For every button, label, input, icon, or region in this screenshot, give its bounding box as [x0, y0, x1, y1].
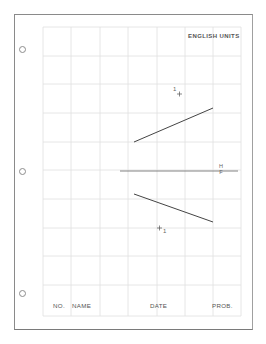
top-view-point-label: 1: [173, 86, 176, 92]
top-view-point-marker: [177, 92, 182, 97]
grid: [43, 27, 241, 316]
title-block-date-label: DATE: [150, 302, 167, 309]
front-view-line: [134, 194, 213, 222]
front-view-point-label: 1: [163, 228, 166, 234]
title-block-problem-label: PROB.: [212, 302, 233, 309]
title-block-number-label: NO.: [53, 302, 65, 309]
folding-line-lower-label: F: [218, 170, 224, 176]
folding-line-label: H F: [218, 164, 224, 175]
front-view-point-marker: [157, 226, 162, 231]
grid-and-drawing: [0, 0, 266, 344]
units-label: ENGLISH UNITS: [188, 33, 240, 39]
title-block-name-label: NAME: [72, 302, 91, 309]
